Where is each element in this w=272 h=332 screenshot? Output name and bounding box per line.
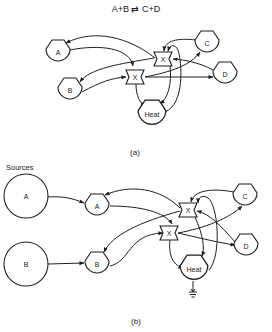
svg-text:B: B: [24, 261, 29, 268]
svg-text:A: A: [24, 193, 29, 200]
svg-text:C: C: [242, 193, 247, 200]
source-A-circle: A: [4, 174, 48, 218]
svg-text:A: A: [56, 49, 61, 56]
reaction-equation-title: A+B ⇄ C+D: [112, 4, 161, 14]
svg-text:B: B: [95, 261, 100, 268]
caption-b: (b): [131, 317, 141, 326]
node-b-X1: X: [160, 226, 178, 240]
node-a-C: C: [195, 31, 219, 52]
panel-a: A B X X C D Heat (a): [46, 31, 237, 157]
panel-b-edges: [48, 189, 242, 292]
node-a-Heat: Heat: [138, 100, 166, 124]
svg-text:X: X: [186, 207, 191, 214]
source-B-circle: B: [4, 242, 48, 286]
node-a-A: A: [46, 40, 70, 61]
svg-text:X: X: [167, 230, 172, 237]
node-b-C: C: [233, 184, 257, 205]
svg-text:D: D: [243, 243, 248, 250]
node-a-D: D: [213, 62, 237, 83]
node-b-Heat: Heat: [180, 255, 208, 279]
node-b-X2: X: [179, 203, 197, 217]
svg-text:Heat: Heat: [186, 266, 201, 274]
svg-text:A: A: [95, 203, 100, 210]
svg-text:X: X: [133, 74, 138, 81]
svg-text:Heat: Heat: [144, 111, 159, 119]
caption-a: (a): [130, 148, 140, 157]
svg-text:X: X: [161, 56, 166, 63]
node-a-X1: X: [126, 70, 144, 84]
node-b-D: D: [234, 234, 258, 255]
node-a-B: B: [58, 78, 82, 99]
panel-b: Sources: [4, 163, 258, 326]
svg-text:D: D: [222, 71, 227, 78]
reaction-network-figure: A+B ⇄ C+D A: [0, 0, 272, 332]
node-b-A: A: [85, 194, 109, 215]
svg-text:C: C: [204, 40, 209, 47]
svg-text:B: B: [68, 87, 73, 94]
node-b-B: B: [85, 252, 109, 273]
sources-label: Sources: [6, 163, 34, 172]
node-a-X2: X: [154, 52, 172, 66]
